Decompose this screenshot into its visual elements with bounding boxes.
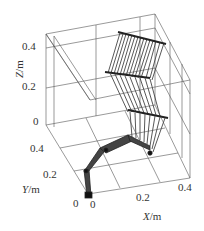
- z-axis-label: Z/m: [13, 60, 25, 78]
- 3d-plot: 0.4 0.2 0 Z/m 0.4 0.2 0 Y/m 0 0.2 0.4 X/…: [0, 0, 204, 231]
- y-tick-0.2: 0.2: [43, 168, 57, 180]
- x-tick-0.4: 0.4: [178, 181, 192, 193]
- arm-base-links: [84, 135, 152, 198]
- x-tick-0: 0: [90, 198, 96, 210]
- x-axis-label: X/m: [142, 210, 162, 222]
- y-axis-label: Y/m: [22, 183, 40, 195]
- z-tick-0.4: 0.4: [22, 40, 36, 52]
- x-tick-0.2: 0.2: [136, 191, 150, 203]
- y-tick-0.4: 0.4: [30, 142, 44, 154]
- z-tick-0: 0: [33, 115, 39, 127]
- z-tick-0.2: 0.2: [22, 80, 36, 92]
- arm-mid-edge: [128, 110, 168, 118]
- y-tick-0: 0: [73, 197, 79, 209]
